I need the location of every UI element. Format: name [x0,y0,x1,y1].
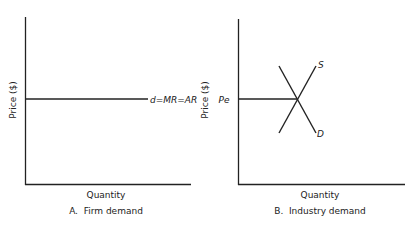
demand-label: D [317,129,324,139]
figure: d=MR=AR Price ($) Quantity A. Firm deman… [0,0,418,225]
y-axis-label: Price ($) [8,81,18,119]
panel-caption: B. Industry demand [274,206,366,216]
supply-label: S [318,60,324,70]
x-axis-label: Quantity [301,190,341,200]
curve-label: d=MR=AR [150,95,197,105]
x-axis-label: Quantity [87,190,127,200]
panel-caption: A. Firm demand [69,206,143,216]
y-axis-label: Price ($) [200,81,210,119]
pe-label: Pe [219,95,230,105]
panel-industry-demand: Pe S D Price ($) Quantity B. Industry de… [200,19,405,216]
panel-firm-demand: d=MR=AR Price ($) Quantity A. Firm deman… [8,17,197,216]
